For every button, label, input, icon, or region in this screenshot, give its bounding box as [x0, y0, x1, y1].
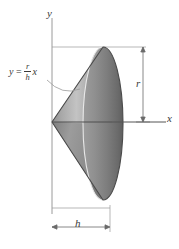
equation-numerator: r — [25, 62, 30, 71]
equation-label: y = r h x — [9, 62, 37, 82]
radius-label: r — [136, 78, 140, 89]
height-label: h — [75, 218, 81, 229]
cone-revolution-figure: y x r h y = r h x — [0, 0, 179, 249]
y-axis-label: y — [47, 8, 52, 19]
x-axis-label: x — [167, 113, 172, 124]
equation-denominator: h — [24, 73, 30, 82]
equation-equals-sign: = — [15, 67, 23, 77]
figure-canvas — [0, 0, 179, 249]
equation-lhs: y — [9, 67, 13, 77]
equation-variable: x — [33, 67, 37, 77]
equation-fraction: r h — [24, 62, 31, 82]
height-dimension — [52, 205, 110, 232]
